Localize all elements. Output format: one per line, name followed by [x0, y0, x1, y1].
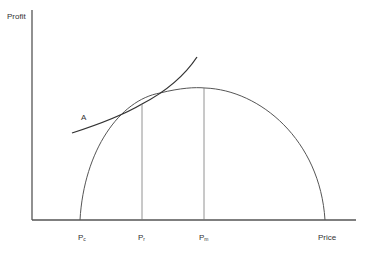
y-axis-label: Profit: [7, 13, 26, 21]
profit-price-diagram: [0, 0, 366, 253]
tick-sub: r: [143, 236, 145, 242]
tick-label-pm: Pm: [199, 234, 209, 242]
tick-label-pc: Pc: [78, 234, 86, 242]
tick-sub: c: [83, 236, 86, 242]
curve-a: [72, 57, 197, 133]
x-axis-label: Price: [318, 234, 336, 242]
profit-arch-curve: [80, 88, 325, 220]
curve-a-label: A: [81, 114, 86, 122]
tick-sub: m: [204, 236, 208, 242]
tick-label-pr: Pr: [138, 234, 145, 242]
